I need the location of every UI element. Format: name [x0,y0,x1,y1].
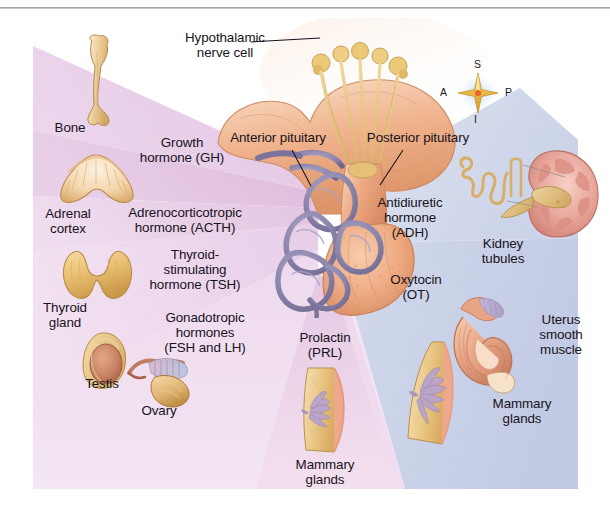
label-oxytocin: Oxytocin (OT) [378,272,454,302]
label-ovary: Ovary [130,403,188,418]
label-testis: Testis [76,376,128,391]
label-thyroid-gland: Thyroid gland [24,300,106,330]
label-growth-hormone: Growth hormone (GH) [128,135,236,165]
label-adrenal-cortex: Adrenal cortex [26,206,110,236]
label-bone: Bone [42,120,98,135]
label-anterior-pituitary: Anterior pituitary [222,130,334,145]
label-gonadotropic-hormones: Gonadotropic hormones (FSH and LH) [145,310,265,355]
label-kidney-tubules: Kidney tubules [465,236,541,266]
ovary-illustration [125,355,199,409]
compass-label-inferior: I [474,113,477,125]
compass-label-posterior: P [505,86,512,98]
label-uterus-smooth-muscle: Uterus smooth muscle [528,312,594,357]
mammary-gland-prolactin-illustration [290,362,356,458]
label-prolactin: Prolactin (PRL) [283,330,367,360]
pituitary-hormone-diagram: S I A P [0,0,610,514]
adrenal-cortex-illustration [56,152,138,208]
label-mammary-glands-oxytocin: Mammary glands [478,396,566,426]
label-tsh: Thyroid- stimulating hormone (TSH) [136,247,254,292]
label-mammary-glands-prolactin: Mammary glands [281,457,369,487]
compass-label-superior: S [474,58,481,70]
mammary-gland-oxytocin-illustration [398,338,474,448]
label-posterior-pituitary: Posterior pituitary [358,130,478,145]
label-adh: Antidiuretic hormone (ADH) [358,195,462,240]
orientation-compass-icon [447,62,509,124]
kidney-tubules-illustration [455,145,600,241]
label-hypothalamic-nerve-cell: Hypothalamic nerve cell [170,30,280,60]
bone-illustration [76,33,120,128]
thyroid-gland-illustration [58,248,138,304]
compass-label-anterior: A [440,86,447,98]
label-acth: Adrenocorticotropic hormone (ACTH) [110,205,260,235]
